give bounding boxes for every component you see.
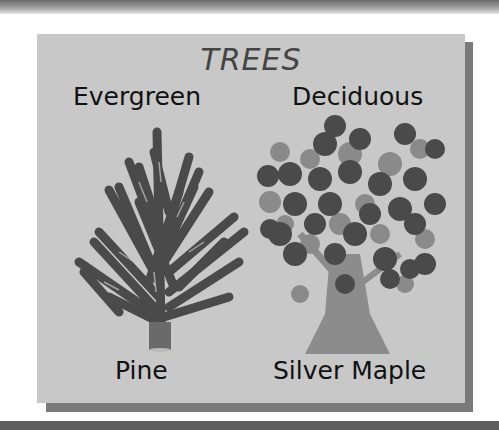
card-title: TREES — [37, 42, 465, 77]
silver-maple-label: Silver Maple — [273, 356, 426, 385]
top-border-bar — [0, 0, 499, 14]
pine-tree-icon — [59, 122, 249, 352]
maple-tree-icon — [240, 114, 455, 359]
pine-label: Pine — [115, 356, 168, 385]
evergreen-heading: Evergreen — [73, 82, 201, 111]
deciduous-heading: Deciduous — [292, 82, 423, 111]
bottom-border-bar — [0, 421, 499, 430]
trees-card: TREES Evergreen Deciduous — [37, 34, 465, 403]
